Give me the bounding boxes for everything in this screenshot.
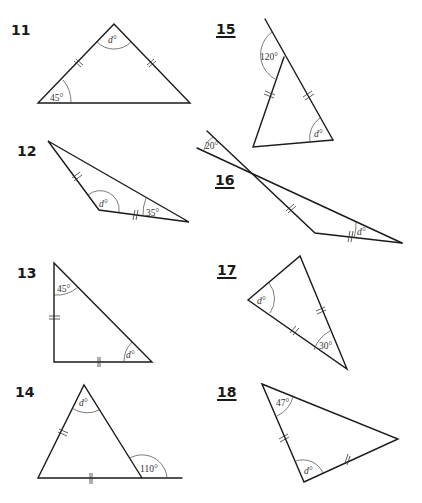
problem-15-unknown-angle: d° [314,129,323,139]
problem-18-triangle: 47° d° [262,384,398,482]
problem-11-unknown-angle: d° [108,35,117,45]
problem-16-given-angle: 20° [205,141,219,151]
problem-12-unknown-angle: d° [99,199,108,209]
problem-12-given-angle: 35° [146,208,160,218]
problem-16-unknown-angle: d° [357,227,366,237]
problem-17-given-angle: 30° [319,341,333,351]
problem-17-triangle: d° 30° [248,256,347,369]
isosceles-triangle-worksheet: 11 12 13 14 15 16 17 18 d° 45° [0,0,422,503]
problem-18-given-angle: 47° [276,398,290,408]
problem-14-unknown-angle: d° [79,398,88,408]
problem-15-triangle: 120° d° [253,19,333,147]
problem-11-given-angle: 45° [50,93,64,103]
problem-16-figure: 20° d° [197,131,402,243]
problem-14-given-angle: 110° [140,464,158,474]
figures: d° 45° 120° d° [0,0,422,503]
problem-13-triangle: 45° d° [49,263,152,367]
problem-15-given-angle: 120° [260,52,278,62]
problem-12-triangle: d° 35° [48,141,189,222]
problem-17-unknown-angle: d° [257,296,266,306]
problem-14-triangle: d° 110° [38,385,182,484]
problem-13-given-angle: 45° [57,284,71,294]
problem-11-triangle: d° 45° [38,24,190,103]
problem-13-unknown-angle: d° [126,350,135,360]
problem-18-unknown-angle: d° [304,466,313,476]
